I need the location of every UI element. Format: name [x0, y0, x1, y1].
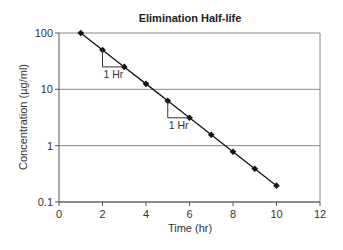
x-tick-label: 0 — [56, 208, 62, 220]
y-tick-label: 100 — [35, 27, 53, 39]
chart-title: Elimination Half-life — [139, 12, 242, 24]
y-tick-label: 1 — [47, 140, 53, 152]
y-axis-label: Concentration (µg/ml) — [17, 64, 29, 170]
series-line — [81, 33, 277, 186]
half-life-label: 1 Hr — [103, 68, 123, 80]
x-tick-label: 12 — [314, 208, 326, 220]
chart: Elimination Half-life 0.1110100024681012… — [0, 0, 343, 250]
y-tick-label: 10 — [41, 83, 53, 95]
x-tick-label: 6 — [186, 208, 192, 220]
y-tick-label: 0.1 — [38, 196, 53, 208]
data-series — [77, 30, 279, 189]
x-tick-label: 8 — [230, 208, 236, 220]
x-tick-label: 4 — [143, 208, 149, 220]
half-life-label: 1 Hr — [169, 119, 189, 131]
x-tick-label: 2 — [99, 208, 105, 220]
annotations: 1 Hr1 Hr — [103, 50, 190, 131]
x-axis-label: Time (hr) — [168, 222, 212, 234]
x-tick-label: 10 — [270, 208, 282, 220]
